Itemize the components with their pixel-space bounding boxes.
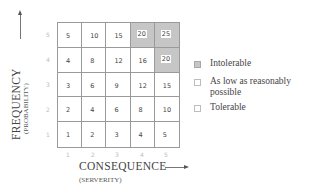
cell-value: 12 <box>139 82 147 90</box>
x-tick-2: 2 <box>91 151 95 158</box>
cell-value: 1 <box>66 131 70 139</box>
risk-matrix: 5 10 15 20 25 4 8 12 16 20 3 6 9 12 15 2… <box>57 22 180 148</box>
cell-value: 4 <box>90 106 94 114</box>
cell-value: 5 <box>66 32 70 40</box>
y-tick-2: 2 <box>46 106 50 113</box>
legend-label: Tolerable <box>210 102 320 113</box>
y-tick-4: 4 <box>46 56 50 63</box>
matrix-cell: 10 <box>82 23 106 48</box>
cell-value: 2 <box>66 106 70 114</box>
matrix-cell: 8 <box>131 97 155 122</box>
cell-value: 10 <box>163 106 171 114</box>
cell-value: 6 <box>90 82 94 90</box>
cell-value: 25 <box>161 30 171 38</box>
matrix-cell: 10 <box>155 97 179 122</box>
consequence-arrow-icon <box>165 167 185 168</box>
cell-value: 20 <box>161 55 171 63</box>
matrix-cell: 8 <box>82 48 106 73</box>
matrix-cell: 5 <box>58 23 82 48</box>
matrix-cell: 16 <box>131 48 155 73</box>
matrix-cell: 4 <box>131 122 155 147</box>
cell-value: 8 <box>139 106 143 114</box>
cell-value: 16 <box>139 57 147 65</box>
cell-value: 4 <box>66 57 70 65</box>
x-axis-title: CONSEQUENCE <box>79 160 167 172</box>
x-tick-4: 4 <box>140 151 144 158</box>
matrix-cell: 9 <box>106 73 130 98</box>
matrix-cell: 5 <box>155 122 179 147</box>
intolerable-swatch-icon <box>194 61 201 68</box>
matrix-cell: 4 <box>82 97 106 122</box>
matrix-cell: 15 <box>106 23 130 48</box>
x-tick-5: 5 <box>164 151 168 158</box>
matrix-cell: 12 <box>106 48 130 73</box>
matrix-cell: 2 <box>58 97 82 122</box>
cell-value: 5 <box>163 131 167 139</box>
y-tick-3: 3 <box>46 81 50 88</box>
cell-value: 2 <box>90 131 94 139</box>
cell-value: 12 <box>114 57 122 65</box>
cell-value: 10 <box>90 32 98 40</box>
alarp-swatch-icon <box>194 79 201 86</box>
matrix-cell: 6 <box>82 73 106 98</box>
cell-value: 20 <box>137 30 147 38</box>
matrix-cell: 3 <box>106 122 130 147</box>
matrix-cell-intolerable: 20 <box>131 23 155 48</box>
matrix-cell-intolerable: 25 <box>155 23 179 48</box>
cell-value: 3 <box>114 131 118 139</box>
cell-value: 4 <box>139 131 143 139</box>
matrix-cell: 3 <box>58 73 82 98</box>
cell-value: 15 <box>114 32 122 40</box>
matrix-cell: 4 <box>58 48 82 73</box>
y-axis-label: FREQUENCY (PROBABILITY) <box>10 40 30 140</box>
y-tick-5: 5 <box>46 31 50 38</box>
cell-value: 6 <box>114 106 118 114</box>
x-tick-1: 1 <box>66 151 70 158</box>
y-tick-1: 1 <box>46 131 50 138</box>
tolerable-swatch-icon <box>194 105 201 112</box>
cell-value: 8 <box>90 57 94 65</box>
frequency-arrow-icon <box>20 13 21 39</box>
matrix-cell-intolerable: 20 <box>155 48 179 73</box>
matrix-cell: 2 <box>82 122 106 147</box>
matrix-cell: 15 <box>155 73 179 98</box>
matrix-cell: 1 <box>58 122 82 147</box>
x-tick-3: 3 <box>115 151 119 158</box>
cell-value: 3 <box>66 82 70 90</box>
x-axis-subtitle: (SERVERITY) <box>79 176 122 184</box>
y-axis-title: FREQUENCY <box>10 40 22 140</box>
legend-label: As low as reasonably possible <box>210 76 305 97</box>
y-axis-subtitle: (PROBABILITY) <box>22 40 30 134</box>
matrix-cell: 12 <box>131 73 155 98</box>
matrix-cell: 6 <box>106 97 130 122</box>
legend-label: Intolerable <box>210 58 320 69</box>
cell-value: 15 <box>163 82 171 90</box>
cell-value: 9 <box>114 82 118 90</box>
